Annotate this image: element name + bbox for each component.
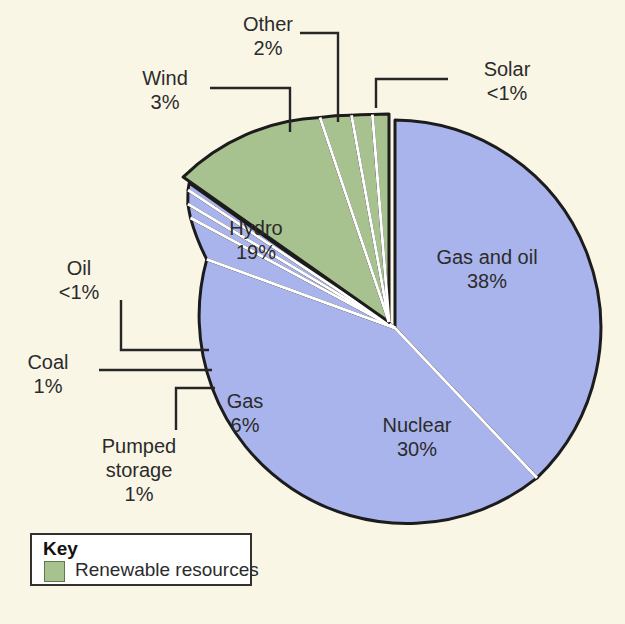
legend-entry-renewable-label: Renewable resources [75, 559, 259, 581]
slice-label-hydro: Hydro 19% [196, 216, 316, 264]
slice-label-gas: Gas 6% [200, 389, 290, 437]
slice-label-gas-value: 6% [200, 413, 290, 437]
callout-label-wind-name: Wind [110, 66, 220, 90]
leader-line-oil [121, 300, 209, 350]
callout-label-other: Other 2% [208, 12, 328, 60]
callout-label-wind-value: 3% [110, 90, 220, 114]
callout-label-pumped-storage-value: 1% [84, 482, 194, 506]
callout-label-coal: Coal 1% [2, 350, 94, 398]
legend-key-box: Key Renewable resources [30, 533, 252, 586]
callout-label-solar-value: <1% [452, 81, 562, 105]
callout-label-coal-value: 1% [2, 374, 94, 398]
callout-label-pumped-storage-name2: storage [84, 458, 194, 482]
callout-label-oil: Oil <1% [24, 256, 134, 304]
slice-label-hydro-name: Hydro [196, 216, 316, 240]
slice-label-gas-and-oil: Gas and oil 38% [412, 245, 562, 293]
slice-label-gas-and-oil-value: 38% [412, 269, 562, 293]
slice-label-hydro-value: 19% [196, 240, 316, 264]
callout-label-oil-name: Oil [24, 256, 134, 280]
callout-label-oil-value: <1% [24, 280, 134, 304]
callout-label-solar-name: Solar [452, 57, 562, 81]
slice-label-nuclear: Nuclear 30% [352, 413, 482, 461]
callout-label-solar: Solar <1% [452, 57, 562, 105]
callout-label-coal-name: Coal [2, 350, 94, 374]
pie-chart-figure: Hydro 19% Gas and oil 38% Nuclear 30% Ga… [0, 0, 625, 624]
legend-title: Key [43, 538, 78, 560]
leader-line-solar [376, 79, 448, 108]
slice-label-nuclear-name: Nuclear [352, 413, 482, 437]
callout-label-pumped-storage-name: Pumped [84, 434, 194, 458]
callout-label-pumped-storage: Pumped storage 1% [84, 434, 194, 506]
slice-label-gas-and-oil-name: Gas and oil [412, 245, 562, 269]
slice-label-nuclear-value: 30% [352, 437, 482, 461]
callout-label-other-name: Other [208, 12, 328, 36]
callout-label-wind: Wind 3% [110, 66, 220, 114]
legend-swatch-renewable [44, 561, 65, 582]
callout-label-other-value: 2% [208, 36, 328, 60]
slice-label-gas-name: Gas [200, 389, 290, 413]
